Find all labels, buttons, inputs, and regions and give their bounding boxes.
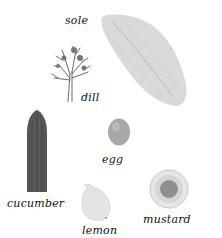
mustard-label: mustard	[143, 213, 191, 226]
lemon-label: lemon	[82, 224, 117, 237]
cucumber-label: cucumber	[7, 197, 64, 210]
egg-image	[106, 117, 132, 147]
cucumber-image	[23, 108, 51, 192]
egg-label: egg	[102, 153, 123, 166]
sole-image	[98, 10, 190, 108]
mustard-image	[149, 169, 189, 209]
sole-label: sole	[65, 14, 88, 27]
lemon-image	[80, 184, 112, 222]
dill-label: dill	[81, 91, 99, 104]
